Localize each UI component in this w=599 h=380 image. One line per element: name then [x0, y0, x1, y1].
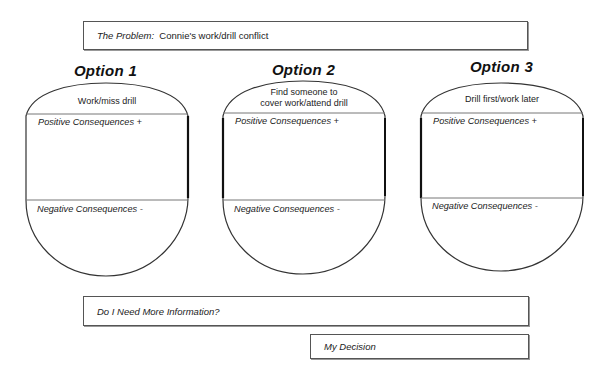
option-1-negative-label: Negative Consequences -	[37, 204, 143, 214]
more-info-label: Do I Need More Information?	[97, 306, 220, 317]
option-2-shape: Find someone to cover work/attend drill …	[221, 78, 387, 278]
option-2-positive-label: Positive Consequences +	[235, 116, 339, 126]
option-3-description: Drill first/work later	[419, 94, 585, 105]
option-3-shape: Drill first/work later Positive Conseque…	[419, 80, 585, 280]
decision-box: My Decision	[310, 334, 529, 359]
problem-label: The Problem:	[97, 30, 154, 41]
option-3-title: Option 3	[420, 58, 583, 75]
option-3-negative-label: Negative Consequences -	[432, 201, 538, 211]
option-1-title: Option 1	[24, 62, 187, 79]
option-2-description: Find someone to cover work/attend drill	[221, 87, 387, 109]
option-1-outline	[24, 80, 190, 280]
option-1-description: Work/miss drill	[24, 96, 190, 107]
option-1-shape: Work/miss drill Positive Consequences + …	[24, 80, 190, 280]
option-2-description-line1: Find someone to	[221, 87, 387, 98]
decision-label: My Decision	[324, 341, 376, 352]
problem-value: Connie's work/drill conflict	[159, 30, 268, 41]
option-2-negative-label: Negative Consequences -	[234, 204, 340, 214]
option-3-outline	[419, 80, 585, 280]
option-2-description-line2: cover work/attend drill	[221, 98, 387, 109]
problem-box: The Problem: Connie's work/drill conflic…	[83, 21, 528, 50]
problem-text: The Problem: Connie's work/drill conflic…	[97, 30, 268, 41]
option-3-positive-label: Positive Consequences +	[433, 116, 537, 126]
option-2-title: Option 2	[222, 61, 385, 78]
more-info-box: Do I Need More Information?	[83, 296, 529, 326]
option-1-positive-label: Positive Consequences +	[38, 117, 142, 127]
